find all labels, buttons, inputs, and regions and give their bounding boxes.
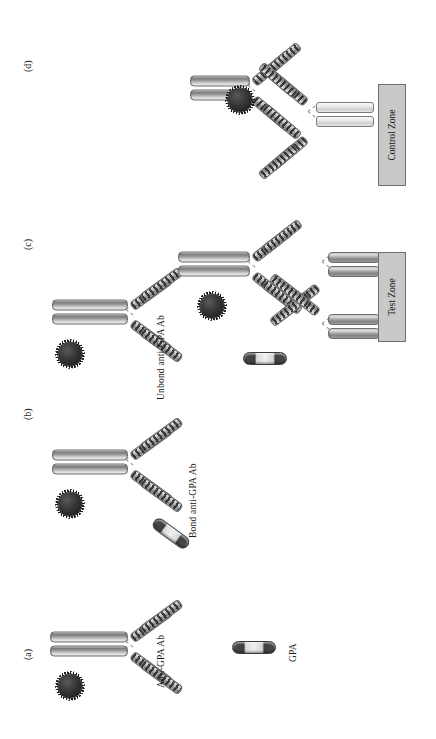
antibody-fc-arm [52,450,128,461]
antibody-fc-arm [328,252,380,263]
antibody-fab-arm [258,143,300,180]
panel-tag-c: (c) [22,239,33,250]
antibody-fc-arm [178,252,250,263]
gold-nanoparticle [58,674,82,698]
antibody-fc-arm [328,266,380,277]
antibody-fc-arm [328,328,380,339]
antibody-fc-arm [50,632,128,643]
gold-nanoparticle [228,88,252,112]
antibody-fc-arm [178,266,250,277]
antibody-stem [316,116,374,127]
antibody-fc-arm [50,646,128,657]
antibody-fc-arm [52,314,128,325]
antibody-fab-arm [261,219,303,255]
panel-a-label: Anti-GPA Ab [156,635,166,688]
antibody-fc-arm [328,314,380,325]
panel-b-label-bond: Bond anti-GPA Ab [188,463,198,538]
gold-nanoparticle [200,294,224,318]
panel-tag-a: (a) [22,649,33,660]
antibody-fc-arm [52,464,128,475]
antibody-fc-arm [52,300,128,311]
figure-canvas: Anti-GPA Ab (a) GPA Bond anti-GPA Ab [0,0,436,739]
antibody-stem [316,102,374,113]
panel-b-label-unbond: Unbond anti-GPA Ab [156,315,166,400]
gpa-antigen [243,352,287,365]
test-zone-label: Test Zone [387,278,397,316]
panel-tag-b: (b) [22,408,33,420]
antibody-fab-arm [261,103,303,140]
control-zone-box: Control Zone [378,84,406,186]
gold-nanoparticle [58,342,82,366]
antibody-fab-arm [139,599,184,635]
antibody-fab-arm [139,417,184,453]
test-zone-box: Test Zone [378,252,406,342]
antibody-fab-arm [139,477,184,513]
control-zone-label: Control Zone [387,110,397,161]
gold-nanoparticle [58,492,82,516]
gpa-antigen [150,516,192,551]
gpa-antigen [232,641,276,654]
panel-tag-d: (d) [22,60,33,72]
legend-label-gpa: GPA [288,643,298,662]
